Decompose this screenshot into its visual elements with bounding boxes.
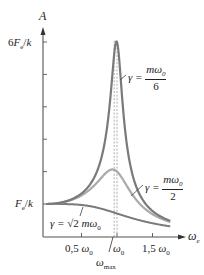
sub: 0 [166,249,170,257]
denominator: 2 [170,190,176,202]
curve-label-gamma-sqrt2: γ = √2 mω0 [50,218,101,232]
omega-max-label: ωmax [96,257,116,271]
sub: 0 [121,249,125,257]
lhs: γ = [145,181,160,193]
sub: 0 [179,180,183,188]
y-tick-label-6: 6Fe/k [8,37,31,51]
x-axis-label: ωe [188,230,200,245]
omega: ω [113,242,121,254]
lhs: γ = [50,217,65,229]
sub: 0 [89,249,93,257]
x-axis-arrow-icon [178,235,186,240]
y-tick-label-1: Fe/k [15,198,33,212]
y-axis-label: A [39,10,46,22]
numerator: mω0 [162,174,183,190]
k: k [28,197,33,209]
sub: e [196,237,199,245]
rest: mω [82,217,98,229]
omega: ω [96,256,104,268]
fraction: mω0 2 [162,174,183,202]
coef: 0,5 [65,242,79,254]
x-tick-label-0-5: 0,5 ω0 [65,243,93,257]
F: F [15,197,22,209]
curve-label-gamma-6: γ = mω0 6 [128,64,166,92]
numerator: mω0 [145,64,166,80]
leader-line-gamma-sqrt2 [80,207,83,216]
coef: 1,5 [142,242,156,254]
fraction: mω0 6 [145,64,166,92]
curve-label-gamma-2: γ = mω0 2 [145,174,183,202]
guide-lines [114,40,117,237]
sub: 0 [162,70,166,78]
radical: √2 [67,217,79,229]
k: k [26,36,31,48]
sub: 0 [97,224,101,232]
x-tick-label-1: ω0 [113,243,124,257]
lhs: γ = [128,71,143,83]
num: mω [146,63,162,75]
num: mω [163,173,179,185]
x-tick-label-1-5: 1,5 ω0 [142,243,170,257]
y-axis-arrow-icon [41,27,46,35]
sub: max [104,263,116,271]
denominator: 6 [153,80,159,92]
